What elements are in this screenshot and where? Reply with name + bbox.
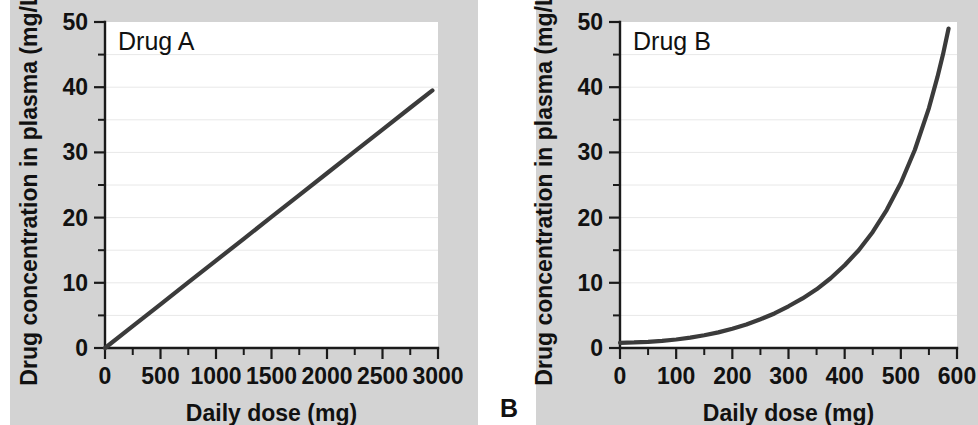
x-tick-label: 500 xyxy=(141,363,179,389)
y-tick-label: 40 xyxy=(577,74,603,100)
y-axis-title: Drug concentration in plasma (mg/L) xyxy=(16,0,42,386)
x-tick-label: 100 xyxy=(657,363,695,389)
chart-drug-a: 01020304050050010001500200025003000Drug … xyxy=(10,0,478,425)
x-tick-label: 0 xyxy=(614,363,627,389)
x-tick-label: 200 xyxy=(713,363,751,389)
plot-b-wrapper: 010203040500100200300400500600Drug BDail… xyxy=(536,0,978,425)
plot-a-wrapper: 01020304050050010001500200025003000Drug … xyxy=(10,0,478,425)
x-tick-label: 2000 xyxy=(301,363,352,389)
y-tick-label: 10 xyxy=(62,270,88,296)
x-tick-label: 3000 xyxy=(412,363,463,389)
y-tick-label: 40 xyxy=(62,74,88,100)
y-tick-label: 50 xyxy=(62,9,88,35)
x-tick-label: 300 xyxy=(769,363,807,389)
series-label: Drug A xyxy=(118,27,195,55)
y-tick-label: 50 xyxy=(577,9,603,35)
y-tick-label: 20 xyxy=(577,205,603,231)
panel-letter-b: B xyxy=(500,396,518,421)
x-axis-title: Daily dose (mg) xyxy=(186,400,357,425)
x-tick-label: 600 xyxy=(938,363,976,389)
series-label: Drug B xyxy=(633,27,711,55)
y-axis-title: Drug concentration in plasma (mg/L) xyxy=(531,0,557,386)
x-axis-title: Daily dose (mg) xyxy=(703,400,874,425)
x-tick-label: 400 xyxy=(825,363,863,389)
x-tick-label: 2500 xyxy=(357,363,408,389)
chart-drug-b: 010203040500100200300400500600Drug BDail… xyxy=(536,0,978,425)
y-tick-label: 30 xyxy=(62,139,88,165)
x-tick-label: 1500 xyxy=(246,363,297,389)
panel-drug-a: 01020304050050010001500200025003000Drug … xyxy=(10,0,478,425)
y-tick-label: 20 xyxy=(62,205,88,231)
y-tick-label: 0 xyxy=(75,335,88,361)
panel-drug-b: 010203040500100200300400500600Drug BDail… xyxy=(536,0,978,425)
y-tick-label: 10 xyxy=(577,270,603,296)
x-tick-label: 0 xyxy=(99,363,112,389)
y-tick-label: 30 xyxy=(577,139,603,165)
y-tick-label: 0 xyxy=(590,335,603,361)
figure-container: 01020304050050010001500200025003000Drug … xyxy=(0,0,978,425)
x-tick-label: 500 xyxy=(882,363,920,389)
x-tick-label: 1000 xyxy=(190,363,241,389)
